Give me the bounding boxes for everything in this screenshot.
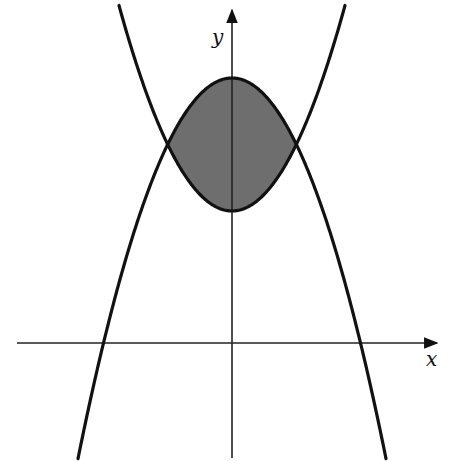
y-axis-label: y (211, 25, 224, 49)
x-axis-label: x (426, 347, 437, 371)
parabola-region-diagram: y x (0, 0, 457, 461)
